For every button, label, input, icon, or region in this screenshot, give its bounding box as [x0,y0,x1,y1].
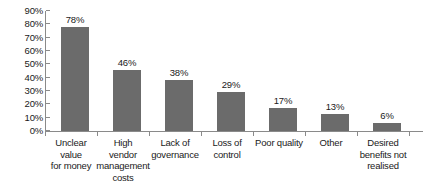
x-axis-category-label-line: Poor quality [249,137,309,149]
x-axis-category-label: Desiredbenefits notrealised [353,137,413,172]
x-axis-category-label-line: value [41,149,101,161]
bar-group[interactable]: 29% [217,0,245,190]
x-axis-category-label-line: Unclear [41,137,101,149]
bar-value-label: 38% [165,67,193,78]
bar[interactable] [113,70,141,131]
x-axis-category-label-line: governance [145,149,205,161]
x-axis-category-label-line: Desired [353,137,413,149]
bar-value-label: 6% [373,110,401,121]
x-axis-category-label: Other [301,137,361,149]
bar-value-label: 13% [321,101,349,112]
bar[interactable] [269,108,297,131]
x-axis-category-label: Lack ofgovernance [145,137,205,160]
x-axis-category-label-line: benefits not [353,149,413,161]
bar-value-label: 78% [61,14,89,25]
bar-group[interactable]: 38% [165,0,193,190]
bar[interactable] [217,92,245,131]
x-axis-category-label-line: for money [41,160,101,172]
x-axis-category-label-line: Lack of [145,137,205,149]
bar-value-label: 46% [113,57,141,68]
plot-area: 78%Unclearvaluefor money46%Highvendorman… [0,0,427,190]
bar-group[interactable]: 13% [321,0,349,190]
x-axis-category-label-line: Other [301,137,361,149]
bar[interactable] [373,123,401,131]
x-axis-category-label-line: vendor [93,149,153,161]
x-axis-category-label: Highvendormanagementcosts [93,137,153,183]
bar-chart: 0%10%20%30%40%50%60%70%80%90% 78%Unclear… [0,0,427,190]
x-axis-category-label-line: costs [93,172,153,184]
bar-group[interactable]: 17% [269,0,297,190]
x-axis-category-label: Loss ofcontrol [197,137,257,160]
x-axis-category-label-line: management [93,160,153,172]
x-axis-category-label-line: control [197,149,257,161]
x-axis-category-label-line: realised [353,160,413,172]
bar-value-label: 29% [217,79,245,90]
bar[interactable] [61,27,89,131]
x-axis-category-label-line: High [93,137,153,149]
x-axis-category-label-line: Loss of [197,137,257,149]
x-axis-category-label: Unclearvaluefor money [41,137,101,172]
bar[interactable] [165,80,193,131]
bar[interactable] [321,114,349,131]
bar-value-label: 17% [269,95,297,106]
x-axis-category-label: Poor quality [249,137,309,149]
